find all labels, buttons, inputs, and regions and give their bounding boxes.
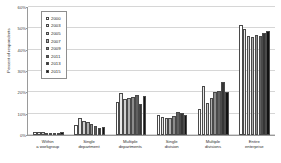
legend-label: 2009 — [51, 46, 61, 51]
y-tick-label: 50% — [18, 26, 26, 31]
bar — [143, 96, 147, 135]
bar-group — [234, 7, 275, 135]
legend-item: 2011 — [46, 52, 61, 60]
legend-label: 2015 — [51, 69, 61, 74]
bar — [102, 127, 106, 135]
legend-item: 2009 — [46, 45, 61, 53]
bar-group — [193, 7, 234, 135]
y-tick-label: 0% — [20, 133, 26, 138]
legend-swatch — [46, 70, 49, 73]
x-tick-label: Entireenterprise — [234, 139, 275, 150]
y-tick-label: 40% — [18, 47, 26, 52]
y-tick-label: 10% — [18, 111, 26, 116]
legend-swatch — [46, 39, 49, 42]
legend-swatch — [46, 24, 49, 27]
legend-swatch — [46, 47, 49, 50]
legend-swatch — [46, 55, 49, 58]
y-tick-label: 30% — [18, 69, 26, 74]
legend-swatch — [46, 62, 49, 65]
y-axis-label: Percent of respondents — [6, 12, 11, 90]
x-tick-label: Withina workgroup — [27, 139, 68, 150]
bar — [60, 132, 64, 135]
y-tick-label: 60% — [18, 5, 26, 10]
bar — [184, 115, 188, 135]
x-tick-label: Singledivision — [151, 139, 192, 150]
legend-label: 2005 — [51, 31, 61, 36]
bar-group — [110, 7, 151, 135]
legend-label: 2011 — [51, 54, 60, 59]
legend-label: 2000 — [51, 16, 61, 21]
legend-item: 2005 — [46, 30, 61, 38]
legend-item: 2000 — [46, 15, 61, 23]
x-axis-labels: Withina workgroupSingledepartmentMultipl… — [27, 139, 275, 150]
legend-item: 2013 — [46, 60, 61, 68]
legend-swatch — [46, 32, 49, 35]
legend-item: 2007 — [46, 37, 61, 45]
legend-item: 2015 — [46, 68, 61, 76]
x-tick-label: Multipledivisions — [192, 139, 233, 150]
legend: 20002003200520072009201120132015 — [41, 11, 67, 79]
legend-label: 2003 — [51, 23, 61, 28]
bar — [266, 31, 270, 135]
legend-label: 2007 — [51, 39, 61, 44]
x-tick-label: Multipledepartments — [110, 139, 151, 150]
legend-label: 2013 — [51, 61, 61, 66]
bar-group — [152, 7, 193, 135]
chart-figure: Percent of respondents 0%10%20%30%40%50%… — [0, 0, 281, 163]
bar-group — [69, 7, 110, 135]
legend-swatch — [46, 17, 49, 20]
legend-item: 2003 — [46, 22, 61, 30]
y-tick-mark — [26, 135, 28, 136]
bar — [225, 92, 229, 135]
x-tick-label: Singledepartment — [68, 139, 109, 150]
y-tick-label: 20% — [18, 90, 26, 95]
